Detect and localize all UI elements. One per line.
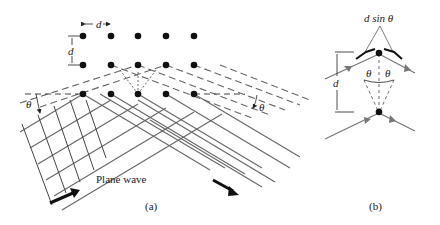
panel-a-caption: (a)	[145, 200, 158, 213]
plane-wave-label: Plane wave	[96, 173, 147, 185]
incident-rays	[20, 94, 222, 210]
angle-label-b-left: θ	[366, 67, 372, 79]
horizontal-spacing-label: d	[96, 18, 102, 30]
spacing-label-b: d	[333, 77, 339, 89]
angle-arc-left	[36, 94, 40, 113]
angle-arc-right	[253, 95, 257, 108]
path-difference-label: d sin θ	[364, 12, 394, 24]
normal-lines	[364, 54, 394, 113]
angle-label-right: θ	[259, 101, 265, 113]
path-difference-pointers	[365, 26, 393, 52]
bragg-diffraction-figure: d d θ θ Plane wave (a) d sin θ	[0, 0, 440, 225]
wavefronts	[22, 100, 106, 205]
scatterer-lower	[376, 109, 383, 116]
panel-b: d sin θ θ	[325, 12, 415, 213]
scatterer-upper	[376, 50, 383, 57]
construction-lines	[120, 70, 156, 94]
angle-label-left: θ	[26, 98, 32, 110]
panel-a: d d θ θ Plane wave (a)	[20, 18, 310, 213]
panel-b-caption: (b)	[369, 200, 382, 213]
vertical-spacing-label: d	[68, 45, 74, 57]
angle-label-b-right: θ	[385, 67, 391, 79]
diffracted-direction-arrow	[213, 180, 239, 196]
lower-ray-arrow-out	[389, 115, 396, 123]
lower-ray	[325, 113, 415, 139]
